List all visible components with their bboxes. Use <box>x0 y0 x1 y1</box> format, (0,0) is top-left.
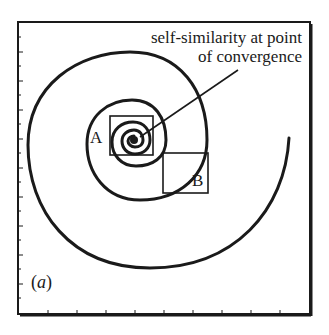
annotation-text: self-similarity at point of convergence <box>151 28 302 66</box>
spiral-curve <box>28 52 289 268</box>
box-a-label: A <box>90 128 102 148</box>
panel-letter: a <box>37 272 46 292</box>
convergence-point <box>130 136 138 144</box>
annotation-line-2: of convergence <box>151 47 302 66</box>
box-b-label: B <box>192 171 203 191</box>
annotation-line-1: self-similarity at point <box>151 28 302 47</box>
panel-label: (a) <box>31 272 52 293</box>
